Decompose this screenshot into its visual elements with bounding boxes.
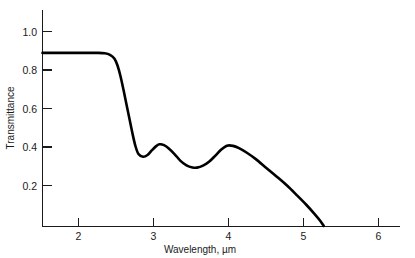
- y-tick-label: 0.6: [22, 103, 37, 115]
- x-tick-label: 3: [151, 230, 157, 242]
- chart-background: [0, 0, 415, 258]
- transmittance-chart: 1.0 0.8 0.6 0.4 0.2 2 3 4 5 6 Wavelength…: [0, 0, 415, 258]
- x-tick-label: 6: [376, 230, 382, 242]
- y-tick-label: 0.2: [22, 180, 37, 192]
- y-tick-label: 0.4: [22, 141, 37, 153]
- y-tick-label: 0.8: [22, 64, 37, 76]
- x-axis-title: Wavelength, µm: [164, 244, 236, 255]
- x-tick-label: 2: [76, 230, 82, 242]
- x-tick-label: 5: [301, 230, 307, 242]
- y-tick-label: 1.0: [22, 26, 37, 38]
- y-axis-title: Transmittance: [5, 86, 16, 149]
- x-tick-label: 4: [226, 230, 232, 242]
